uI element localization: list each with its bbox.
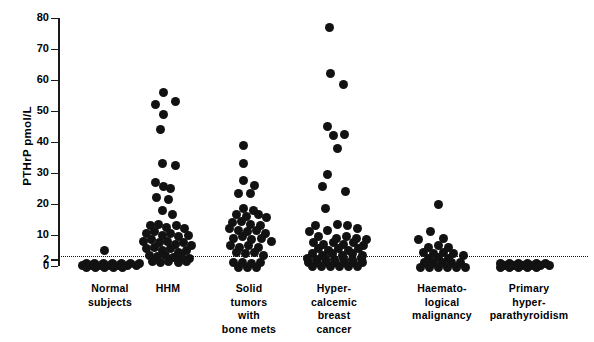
data-point (434, 263, 443, 272)
data-point (168, 210, 177, 219)
data-point (532, 263, 541, 272)
scatter-plot-figure: PTHrP pmol/L 807060504030201020 Normalsu… (0, 0, 594, 342)
group-label-line: hyper- (469, 296, 589, 310)
data-point (151, 100, 160, 109)
data-point (323, 122, 332, 131)
data-point (353, 262, 362, 271)
y-tick-mark-0 (51, 266, 58, 268)
data-point (323, 226, 332, 235)
data-point (171, 97, 180, 106)
group-label-line: Hyper- (274, 282, 394, 296)
x-axis-group-labels: NormalsubjectsHHMSolidtumorswithbone met… (0, 282, 594, 342)
data-point (267, 237, 276, 246)
data-point (333, 220, 342, 229)
data-point (164, 195, 173, 204)
data-point (326, 262, 335, 271)
group-label-line: Primary (469, 282, 589, 296)
data-point (341, 187, 350, 196)
y-tick-mark-60 (51, 80, 58, 82)
data-point (326, 69, 335, 78)
data-point (237, 217, 246, 226)
data-point (523, 263, 532, 272)
data-point (545, 261, 554, 270)
data-point (152, 193, 161, 202)
data-point (353, 224, 362, 233)
group-label-line: parathyroidism (469, 309, 589, 323)
group-label-line: calcemic (274, 296, 394, 310)
data-point (91, 263, 100, 272)
data-point (100, 246, 109, 255)
y-tick-mark-10 (51, 235, 58, 237)
data-point (156, 125, 165, 134)
group-label-primary-hyperpara: Primaryhyper-parathyroidism (469, 282, 589, 323)
group-label-hypercalcemic-breast: Hyper-calcemicbreastcancer (274, 282, 394, 336)
data-point (321, 204, 330, 213)
data-point (100, 263, 109, 272)
y-tick-mark-70 (51, 49, 58, 51)
data-point (343, 221, 352, 230)
data-point (335, 262, 344, 271)
group-label-line: breast (274, 309, 394, 323)
data-point (333, 144, 342, 153)
y-tick-mark-2 (51, 259, 58, 261)
data-point (461, 263, 470, 272)
y-tick-mark-80 (51, 18, 58, 20)
data-point (325, 23, 334, 32)
data-point (416, 263, 425, 272)
data-point (82, 263, 91, 272)
data-point (243, 263, 252, 272)
group-label-line: cancer (274, 323, 394, 337)
data-point (239, 159, 248, 168)
data-point (505, 263, 514, 272)
data-point (239, 176, 248, 185)
data-point (317, 262, 326, 271)
data-point (171, 161, 180, 170)
y-tick-mark-40 (51, 142, 58, 144)
y-tick-mark-20 (51, 204, 58, 206)
data-point (514, 263, 523, 272)
data-point (305, 227, 314, 236)
data-point (132, 261, 141, 270)
data-point (239, 141, 248, 150)
group-label-line: subjects (50, 296, 170, 310)
data-point (443, 263, 452, 272)
data-point (109, 263, 118, 272)
y-tick-mark-30 (51, 173, 58, 175)
data-point (182, 257, 191, 266)
data-point (329, 131, 338, 140)
data-point (414, 235, 423, 244)
detection-threshold-line (58, 256, 588, 257)
data-point (257, 234, 266, 243)
data-point (318, 182, 327, 191)
data-point (159, 110, 168, 119)
data-point (308, 262, 317, 271)
data-point (426, 227, 435, 236)
data-point (340, 130, 349, 139)
data-point (496, 263, 505, 272)
data-point (166, 184, 175, 193)
data-point (234, 189, 243, 198)
y-tick-mark-50 (51, 111, 58, 113)
data-point (323, 170, 332, 179)
data-point (425, 263, 434, 272)
data-point (225, 224, 234, 233)
data-point (339, 80, 348, 89)
data-point (158, 159, 167, 168)
data-point (344, 262, 353, 271)
data-point (159, 88, 168, 97)
data-point (252, 263, 261, 272)
data-point (158, 206, 167, 215)
data-point (118, 263, 127, 272)
data-point (246, 189, 255, 198)
data-point (434, 200, 443, 209)
data-point (452, 263, 461, 272)
plot-area (0, 0, 594, 280)
data-point (164, 257, 173, 266)
data-point (234, 263, 243, 272)
data-point (238, 232, 247, 241)
